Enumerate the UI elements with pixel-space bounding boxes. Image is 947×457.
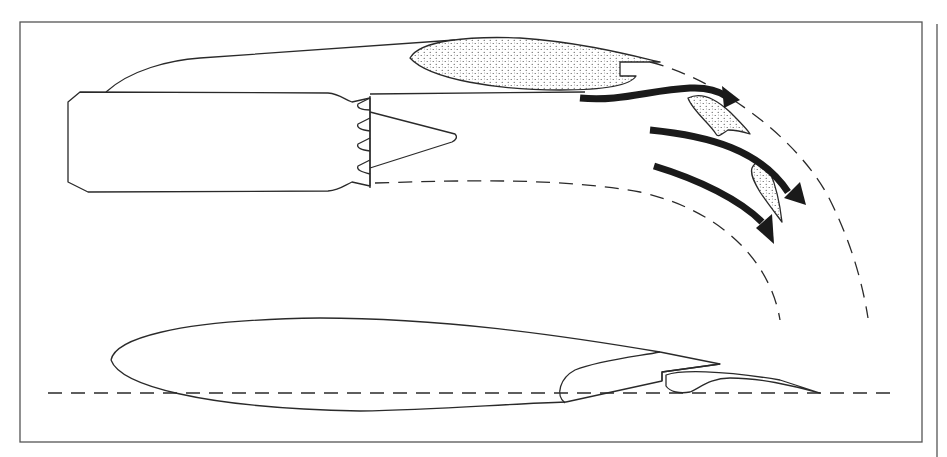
upper-flap xyxy=(410,38,660,90)
wing-lower-surface xyxy=(111,360,566,411)
diagram-canvas xyxy=(0,0,947,457)
mixer-lobe xyxy=(358,160,370,174)
wing-section-with-flap xyxy=(48,318,895,411)
mixer-lobe xyxy=(358,118,370,131)
jet-boundary-inner-dashed xyxy=(375,181,780,320)
thrust-reverser-diagram xyxy=(0,0,947,457)
flow-arrow-3-shaft xyxy=(654,166,762,222)
wing-trailing-edge xyxy=(566,352,720,402)
nacelle-outer-line xyxy=(106,40,455,92)
exhaust-plug-cone xyxy=(370,112,456,168)
figure-frame xyxy=(20,22,937,457)
mixer-lobe xyxy=(358,138,370,151)
frame-border xyxy=(20,22,922,442)
flow-arrow-1-head-icon xyxy=(722,86,740,108)
flow-arrows xyxy=(580,86,806,244)
slotted-flap xyxy=(662,364,820,393)
engine-core-body xyxy=(68,92,370,192)
vane-1 xyxy=(688,96,750,136)
wing-upper-surface xyxy=(111,318,660,360)
bypass-duct-line xyxy=(370,92,585,94)
wing-trailing-cove xyxy=(560,352,660,403)
